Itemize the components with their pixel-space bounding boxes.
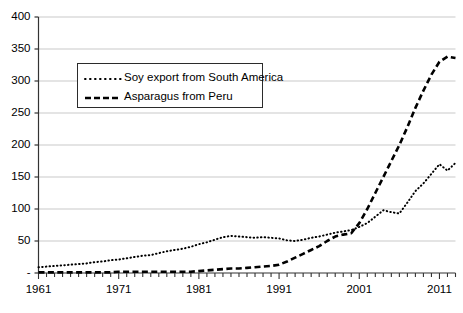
chart-legend: Soy export from South America Asparagus … <box>77 63 263 108</box>
y-tick-label: 200 <box>0 139 31 151</box>
x-tick-label: 2011 <box>409 284 463 296</box>
series-line-soy <box>39 163 456 267</box>
gridlines <box>39 17 456 241</box>
x-tick-label: 1991 <box>249 284 309 296</box>
legend-item-soy: Soy export from South America <box>84 69 283 85</box>
legend-label-soy: Soy export from South America <box>124 71 283 83</box>
y-tick-label: 250 <box>0 107 31 119</box>
legend-label-asparagus: Asparagus from Peru <box>124 90 233 102</box>
x-tick-label: 1981 <box>169 284 229 296</box>
x-tick-label: 2001 <box>329 284 389 296</box>
y-tick-label: 100 <box>0 203 31 215</box>
y-tick-label: 350 <box>0 43 31 55</box>
y-tick-label: - <box>0 267 31 279</box>
x-tick-label: 1961 <box>9 284 69 296</box>
chart-plot-area <box>0 0 463 313</box>
y-tick-label: 50 <box>0 235 31 247</box>
legend-swatch-dashed-icon <box>84 90 122 102</box>
x-axis-tick-marks <box>39 273 456 279</box>
y-tick-label: 400 <box>0 11 31 23</box>
legend-swatch-dotted-icon <box>84 71 122 83</box>
legend-item-asparagus: Asparagus from Peru <box>84 88 233 104</box>
line-chart: -50100150200250300350400 196119711981199… <box>0 0 463 313</box>
y-tick-label: 300 <box>0 75 31 87</box>
y-tick-label: 150 <box>0 171 31 183</box>
x-tick-label: 1971 <box>89 284 149 296</box>
